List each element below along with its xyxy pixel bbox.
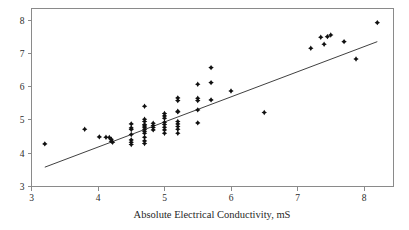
data-point-marker — [228, 88, 233, 93]
data-point-marker — [262, 110, 267, 115]
regression-line — [45, 42, 378, 168]
y-tick-label: 4 — [20, 149, 25, 159]
data-point-marker — [375, 20, 380, 25]
x-tick-label: 4 — [96, 193, 101, 203]
x-axis-title: Absolute Electrical Conductivity, mS — [134, 209, 291, 220]
data-point-marker — [208, 97, 213, 102]
data-point-marker — [162, 131, 167, 136]
data-point-marker — [175, 109, 180, 114]
data-point-marker — [195, 82, 200, 87]
data-point-marker — [208, 80, 213, 85]
data-points — [42, 20, 380, 147]
data-point-marker — [42, 141, 47, 146]
data-point-marker — [321, 42, 326, 47]
data-point-marker — [175, 131, 180, 136]
y-tick-label: 5 — [20, 115, 25, 125]
data-point-marker — [142, 104, 147, 109]
data-point-marker — [318, 35, 323, 40]
data-point-marker — [129, 132, 134, 137]
y-tick-label: 3 — [20, 182, 25, 192]
data-point-marker — [97, 134, 102, 139]
scatter-plot: 345678 345678 Absolute Electrical Conduc… — [0, 0, 409, 230]
x-tick-label: 7 — [295, 193, 300, 203]
data-point-marker — [195, 120, 200, 125]
y-axis-ticks: 345678 — [20, 16, 32, 193]
x-tick-label: 6 — [229, 193, 234, 203]
fit-line — [45, 42, 378, 168]
chart-figure: 345678 345678 Absolute Electrical Conduc… — [0, 0, 409, 230]
data-point-marker — [353, 56, 358, 61]
x-tick-label: 8 — [362, 193, 367, 203]
x-tick-label: 5 — [162, 193, 167, 203]
data-point-marker — [195, 107, 200, 112]
x-tick-label: 3 — [29, 193, 34, 203]
data-point-marker — [208, 65, 213, 70]
data-point-marker — [308, 46, 313, 51]
y-tick-label: 7 — [20, 49, 25, 59]
y-tick-label: 6 — [20, 82, 25, 92]
data-point-marker — [341, 39, 346, 44]
data-point-marker — [82, 127, 87, 132]
data-point-marker — [175, 98, 180, 103]
data-point-marker — [142, 141, 147, 146]
plot-frame — [32, 9, 394, 187]
y-tick-label: 8 — [20, 16, 25, 26]
x-axis-ticks: 345678 — [29, 187, 367, 203]
plot-frame-border — [32, 9, 394, 187]
